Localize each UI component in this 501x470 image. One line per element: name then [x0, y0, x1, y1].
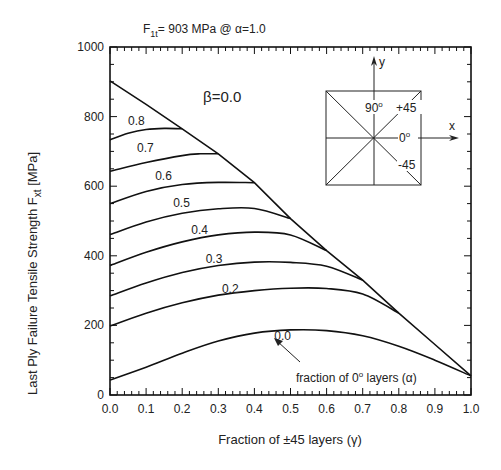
- x-tick-label: 0.8: [390, 402, 407, 416]
- x-tick-label: 0.1: [138, 402, 155, 416]
- y-tick-label: 600: [84, 179, 104, 193]
- arrow-line: [277, 341, 300, 362]
- series-label: 0.6: [155, 169, 172, 183]
- x-tick-label: 0.5: [282, 402, 299, 416]
- x-tick-label: 0.4: [246, 402, 263, 416]
- series-line: [110, 288, 399, 326]
- svg-text:y: y: [379, 55, 385, 69]
- svg-text:-45: -45: [398, 158, 416, 172]
- series-label: 0.4: [191, 223, 208, 237]
- series-line: [110, 128, 182, 140]
- y-tick-label: 0: [97, 388, 104, 402]
- y-axis-label: Last Ply Failure Tensile Strength Fxt [M…: [25, 152, 43, 395]
- x-tick-label: 0.6: [318, 402, 335, 416]
- series-label: 0.8: [128, 114, 145, 128]
- x-tick-label: 0.2: [174, 402, 191, 416]
- beta-annotation: β=0.0: [203, 88, 241, 105]
- svg-text:x: x: [449, 119, 455, 133]
- series-label: 0.3: [206, 252, 223, 266]
- y-tick-label: 200: [84, 318, 104, 332]
- chart: F1t= 903 MPa @ α=1.0 Last Ply Failure Te…: [0, 0, 501, 470]
- x-tick-label: 0.7: [354, 402, 371, 416]
- x-tick-label: 0.3: [210, 402, 227, 416]
- series-label: 0.7: [137, 141, 154, 155]
- x-axis-label: Fraction of ±45 layers (γ): [218, 432, 362, 447]
- svg-text:+45: +45: [396, 101, 417, 115]
- y-tick-label: 1000: [77, 40, 104, 54]
- ply-orientation-inset: y x 90o +45 0o -45: [326, 55, 459, 185]
- x-tick-label: 0.0: [102, 402, 119, 416]
- x-tick-label: 1.0: [463, 402, 480, 416]
- x-tick-label: 0.9: [427, 402, 444, 416]
- series-label: 0.5: [173, 196, 190, 210]
- y-tick-label: 400: [84, 249, 104, 263]
- chart-title: F1t= 903 MPa @ α=1.0: [143, 22, 266, 39]
- y-tick-label: 800: [84, 110, 104, 124]
- series-label: 0.2: [222, 282, 239, 296]
- svg-text:fraction of 0o layers (α): fraction of 0o layers (α): [296, 370, 417, 385]
